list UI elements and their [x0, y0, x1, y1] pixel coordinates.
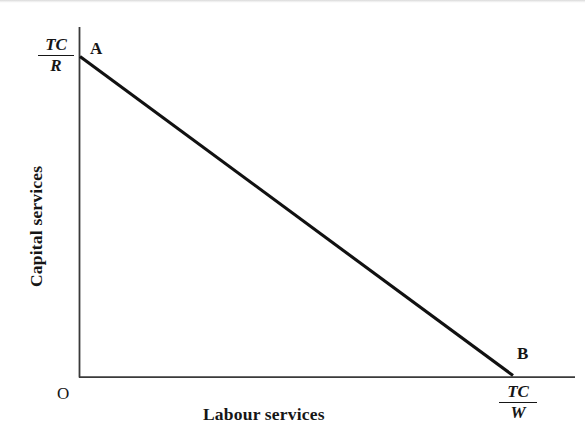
point-a-label: A [90, 40, 102, 57]
point-b-label: B [517, 345, 528, 362]
y-intercept-denominator: R [38, 56, 74, 76]
x-intercept-fraction: TC W [499, 383, 537, 423]
x-intercept-denominator: W [499, 403, 537, 423]
y-axis-title: Capital services [28, 166, 46, 287]
isocost-diagram: TC R A B TC W O Capital services Labour … [0, 0, 585, 432]
x-axis-title: Labour services [203, 406, 325, 424]
origin-label: O [57, 385, 69, 402]
y-intercept-numerator: TC [38, 36, 74, 55]
isocost-line [80, 57, 513, 376]
x-intercept-numerator: TC [499, 383, 537, 402]
y-intercept-fraction: TC R [38, 36, 74, 76]
plot-canvas [0, 0, 585, 432]
